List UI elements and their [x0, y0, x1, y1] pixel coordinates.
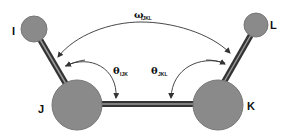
omega-arrow-left: [58, 22, 141, 57]
atom-label-k: K: [247, 100, 255, 112]
theta-ijk-subscript: IJK: [120, 71, 128, 77]
bond-k-l: [224, 33, 252, 82]
omega-label: ω IJKL: [134, 9, 152, 21]
omega-arrow-right: [141, 22, 230, 53]
theta-jkl-subscript: JKL: [158, 71, 167, 77]
theta-jkl-symbol: θ: [151, 65, 158, 76]
atom-j: [52, 80, 102, 130]
atom-l: [244, 13, 268, 37]
theta-jkl-label: θ JKL: [151, 65, 167, 77]
atom-label-j: J: [38, 103, 44, 115]
theta-ijk-symbol: θ: [113, 65, 120, 76]
theta-ijk-label: θ IJK: [113, 65, 128, 77]
atom-k: [193, 80, 243, 130]
omega-subscript: IJKL: [141, 15, 152, 21]
atom-label-i: I: [12, 25, 15, 37]
atom-i: [21, 16, 47, 42]
molecule-angle-diagram: I J K L ω IJKL θ IJK θ JKL: [0, 0, 283, 136]
atom-label-l: L: [270, 19, 277, 31]
theta-ijk-arc-start: [66, 60, 85, 66]
bond-i-j: [38, 36, 66, 84]
